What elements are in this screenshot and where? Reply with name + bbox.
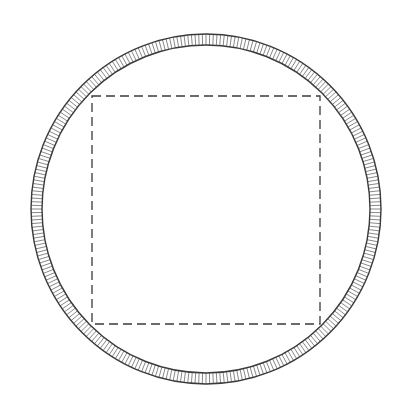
ring-outer-edge (31, 34, 381, 384)
ring-hatching (31, 34, 381, 384)
hatched-ring (31, 34, 381, 384)
dashed-square-outline (92, 96, 320, 324)
diagram-canvas (0, 0, 418, 412)
ring-inner-edge (42, 45, 370, 373)
